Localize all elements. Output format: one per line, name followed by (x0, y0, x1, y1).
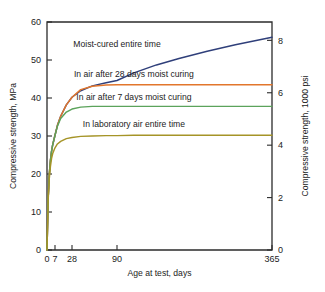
x-axis-tick-label: 28 (67, 254, 77, 264)
y2-axis-title: Compressive strength, 1000 psi (300, 75, 310, 196)
x-axis-tick-label: 7 (52, 254, 57, 264)
x-axis-title: Age at test, days (127, 268, 191, 278)
series-label: Moist-cured entire time (73, 39, 161, 49)
x-axis-tick-label: 365 (264, 254, 279, 264)
series-label: In laboratory air entire time (83, 119, 185, 129)
series-label: In air after 28 days moist curing (74, 69, 194, 79)
y-axis-tick-label: 40 (31, 93, 41, 103)
series-curve (47, 135, 272, 250)
x-axis-tick-label: 90 (112, 254, 122, 264)
y-axis-tick-label: 20 (31, 169, 41, 179)
y-axis-tick-label: 30 (31, 131, 41, 141)
series-label: In air after 7 days moist curing (76, 92, 191, 102)
series-curve (47, 85, 272, 250)
y2-axis-tick-label: 4 (278, 140, 283, 150)
x-axis-tick-label: 0 (44, 254, 49, 264)
y-axis-tick-label: 50 (31, 55, 41, 65)
y2-axis-tick-label: 2 (278, 193, 283, 203)
y2-axis-tick-label: 8 (278, 36, 283, 46)
chart-canvas: 010203040506002468072890365Moist-cured e… (0, 0, 325, 292)
y-axis-tick-label: 10 (31, 207, 41, 217)
y-axis-title: Compressive strength, MPa (8, 83, 18, 189)
compressive-strength-chart: 010203040506002468072890365Moist-cured e… (0, 0, 325, 292)
y-axis-tick-label: 0 (36, 245, 41, 255)
y-axis-tick-label: 60 (31, 17, 41, 27)
y2-axis-tick-label: 6 (278, 88, 283, 98)
